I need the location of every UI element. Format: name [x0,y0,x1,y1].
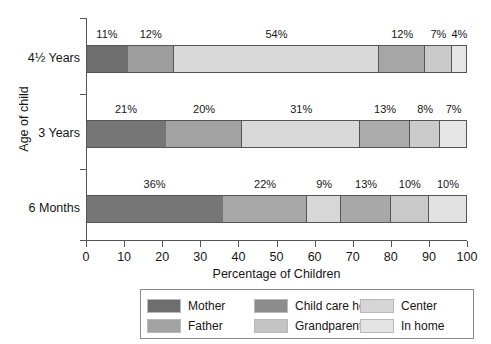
x-axis-title: Percentage of Children [86,267,467,281]
bar-group [0,45,491,73]
bar-group [0,120,491,148]
x-tick-label: 40 [218,250,258,264]
segment-value-label: 9% [316,178,332,190]
x-tick-label: 50 [257,250,297,264]
segment-value-label: 13% [355,178,377,190]
bar-segment [360,120,410,148]
bar-segment [307,195,341,223]
x-tick [162,241,163,247]
bar-segment [174,45,380,73]
segment-value-label: 10% [437,178,459,190]
bar-segment [242,120,360,148]
segment-value-label: 36% [144,178,166,190]
x-tick-label: 20 [142,250,182,264]
segment-value-label: 12% [391,28,413,40]
legend-swatch [254,319,288,333]
bar-segment [86,195,224,223]
segment-value-label: 22% [254,178,276,190]
bar-group [0,195,491,223]
x-tick [353,241,354,247]
y-tick [80,94,86,95]
bar-segment [425,45,452,73]
bar-segment [341,195,391,223]
stacked-bar-chart: Age of child 4½ Years3 Years6 Months 010… [0,0,491,344]
x-tick [238,241,239,247]
legend-label: In home [401,318,444,334]
bar-segment [166,120,242,148]
x-tick [391,241,392,247]
segment-value-label: 21% [115,103,137,115]
x-tick-label: 70 [333,250,373,264]
bar-segment [429,195,467,223]
legend-label: Grandparent [295,318,362,334]
segment-value-label: 13% [374,103,396,115]
legend-swatch [360,299,394,313]
legend-swatch [254,299,288,313]
x-tick [200,241,201,247]
legend-swatch [360,319,394,333]
segment-value-label: 7% [430,28,446,40]
bar-segment [86,120,167,148]
x-tick-label: 100 [447,250,487,264]
segment-value-label: 54% [265,28,287,40]
bar-segment [379,45,425,73]
segment-value-label: 12% [140,28,162,40]
x-tick [467,241,468,247]
y-tick [80,169,86,170]
bar-segment [391,195,429,223]
x-tick-label: 90 [409,250,449,264]
segment-value-label: 10% [399,178,421,190]
bar-segment [452,45,467,73]
y-tick [80,18,86,19]
segment-value-label: 31% [290,103,312,115]
legend-swatch [147,319,181,333]
bar-segment [410,120,440,148]
segment-value-label: 20% [193,103,215,115]
legend-swatch [147,299,181,313]
bar-segment [440,120,467,148]
legend-label: Father [188,318,223,334]
segment-value-label: 11% [96,28,117,40]
legend-label: Center [401,298,437,314]
x-tick-label: 30 [180,250,220,264]
x-tick-label: 60 [295,250,335,264]
bar-segment [223,195,307,223]
x-tick-label: 0 [66,250,106,264]
x-tick-label: 80 [371,250,411,264]
x-tick [86,241,87,247]
x-tick [124,241,125,247]
x-tick [429,241,430,247]
chart-legend: MotherFatherChild care homeGrandparentCe… [140,289,474,339]
legend-label: Mother [188,298,225,314]
bar-segment [86,45,129,73]
segment-value-label: 8% [417,103,433,115]
x-tick [315,241,316,247]
segment-value-label: 7% [446,103,462,115]
segment-value-label: 4% [451,28,467,40]
bar-segment [128,45,174,73]
x-tick-label: 10 [104,250,144,264]
x-tick [277,241,278,247]
